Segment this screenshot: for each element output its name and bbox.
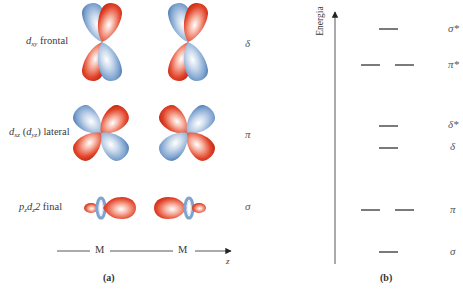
level-label-sigma: σ [450, 245, 455, 257]
row-label-pzdz2: pzdz2 final [19, 201, 62, 214]
energy-levels [361, 29, 414, 252]
atom-label-2: M [178, 244, 187, 255]
caption-b: (b) [380, 272, 392, 283]
overlap-type: lateral [41, 126, 70, 137]
overlap-type: final [40, 201, 62, 212]
dxy-orbital-right [165, 0, 211, 84]
dxz-orbital-right [155, 101, 219, 165]
bond-type-delta: δ [245, 37, 250, 49]
level-label-delta-star: δ* [448, 118, 459, 130]
row-label-dxy: dxy frontal [26, 35, 68, 48]
dxz-orbital-left [69, 101, 133, 165]
bond-type-sigma: σ [245, 200, 250, 212]
level-label-pi-star: π* [448, 58, 459, 70]
overlap-type: frontal [37, 35, 68, 46]
level-label-pi: π [450, 203, 456, 215]
bond-type-pi: π [245, 128, 251, 140]
pzdz2-orbital-right [154, 197, 206, 219]
row-label-dxz: dxz (dyz) lateral [9, 126, 70, 139]
z-axis-label: z [226, 256, 230, 266]
dxy-orbital-left [79, 0, 125, 84]
caption-a: (a) [103, 272, 115, 283]
level-label-delta: δ [450, 140, 455, 152]
level-label-sigma-star: σ* [448, 22, 459, 34]
pzdz2-orbital-left [84, 197, 136, 219]
atom-label-1: M [95, 244, 104, 255]
energy-axis-label: Energia [315, 1, 325, 41]
orbital-diagram-graphics [0, 0, 463, 294]
